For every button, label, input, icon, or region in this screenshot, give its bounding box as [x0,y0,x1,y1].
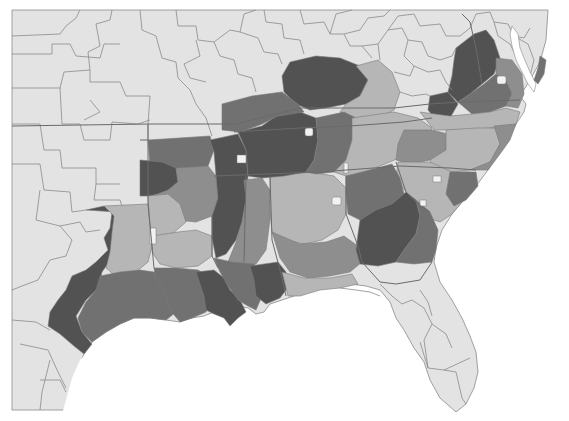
hole-kentucky [305,128,313,136]
hole-virginia [497,76,506,84]
hole-georgia [420,200,426,206]
hole-arkansas [237,155,246,163]
hole-tennessee [344,163,348,173]
choropleth-map [0,0,569,421]
map-svg [0,0,569,421]
hole-alabama [332,197,341,205]
region-louisiana-north [152,230,212,268]
hole-sc [433,176,441,182]
